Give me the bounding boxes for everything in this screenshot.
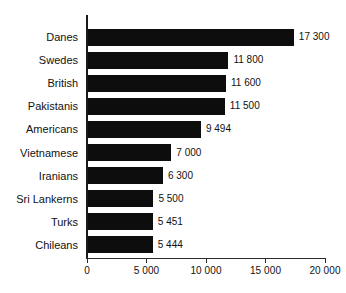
bar: [88, 213, 153, 230]
category-label: British: [0, 76, 78, 90]
x-tick-label: 20 000: [309, 265, 340, 277]
bar: [88, 144, 171, 161]
bar-row: Americans9 494: [0, 119, 346, 142]
bar-row: Iranians6 300: [0, 166, 346, 189]
bar-row: Pakistanis11 500: [0, 96, 346, 119]
category-label: Danes: [0, 30, 78, 44]
x-tick: [146, 258, 147, 263]
bar: [88, 52, 228, 69]
x-tick: [265, 258, 266, 263]
x-tick-label: 10 000: [190, 265, 221, 277]
bar-rows: Danes17 300Swedes11 800British11 600Paki…: [0, 27, 346, 258]
bar: [88, 236, 153, 253]
bar: [88, 98, 225, 115]
x-tick-label: 5 000: [134, 265, 160, 277]
bar-value-label: 9 494: [206, 122, 231, 136]
bar-row: British11 600: [0, 73, 346, 96]
bar-value-label: 5 500: [158, 192, 183, 206]
bar: [88, 121, 201, 138]
bar-value-label: 17 300: [299, 30, 330, 44]
bar-value-label: 11 800: [233, 53, 263, 67]
bar-value-label: 11 500: [230, 99, 260, 113]
category-label: Swedes: [0, 53, 78, 67]
bar-value-label: 5 451: [158, 215, 183, 229]
bar: [88, 190, 153, 207]
category-label: Americans: [0, 122, 78, 136]
bar-row: Chileans5 444: [0, 235, 346, 258]
bar-row: Vietnamese7 000: [0, 143, 346, 166]
bar-row: Swedes11 800: [0, 50, 346, 73]
bar: [88, 167, 163, 184]
category-label: Vietnamese: [0, 146, 78, 160]
bar: [88, 75, 226, 92]
x-tick-label: 15 000: [250, 265, 281, 277]
bar-row: Danes17 300: [0, 27, 346, 50]
x-tick: [87, 258, 88, 263]
category-label: Iranians: [0, 169, 78, 183]
category-label: Chileans: [0, 238, 78, 252]
bar: [88, 29, 294, 46]
category-label: Turks: [0, 215, 78, 229]
bar-value-label: 6 300: [168, 169, 193, 183]
category-label: Pakistanis: [0, 99, 78, 113]
x-tick: [206, 258, 207, 263]
bar-value-label: 11 600: [231, 76, 261, 90]
bar-row: Turks5 451: [0, 212, 346, 235]
bar-value-label: 7 000: [176, 146, 201, 160]
x-tick-label: 0: [84, 265, 90, 277]
bar-value-label: 5 444: [158, 238, 183, 252]
x-tick: [325, 258, 326, 263]
category-label: Sri Lankerns: [0, 192, 78, 206]
bar-row: Sri Lankerns5 500: [0, 189, 346, 212]
bar-chart: 05 00010 00015 00020 000 Danes17 300Swed…: [0, 0, 346, 293]
